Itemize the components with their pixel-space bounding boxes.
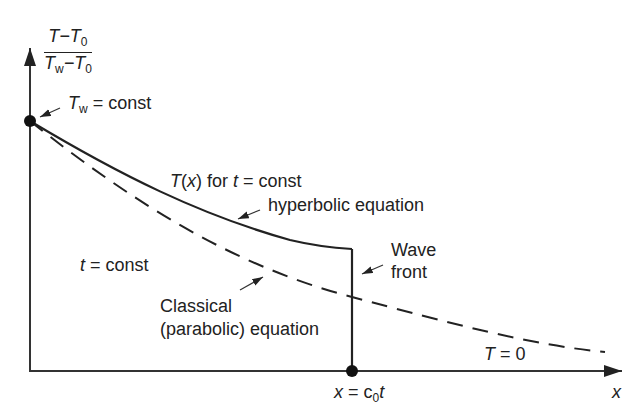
- classical-arrow-icon: [240, 277, 263, 290]
- t0-label: T = 0: [484, 344, 526, 364]
- classical-label-2: (parabolic) equation: [160, 319, 319, 339]
- front-position-label: x = c0t: [334, 382, 384, 408]
- diagram: T−T0 Tw−T0 Tw = const T(x) for t = const…: [0, 0, 639, 419]
- tx-d: ) for: [196, 171, 233, 191]
- tx-f: = const: [238, 171, 302, 191]
- y-num: T−T: [48, 26, 81, 46]
- t0-rest: = 0: [495, 344, 526, 364]
- wave-label-1: Wave: [391, 240, 436, 260]
- x-axis-label: x: [612, 382, 621, 402]
- classical-label-1: Classical: [160, 296, 232, 316]
- parabolic-curve: [30, 121, 605, 352]
- tx-label: T(x) for t = const: [170, 171, 302, 191]
- wave-label-2: front: [391, 262, 427, 282]
- tw-label: Tw = const: [68, 93, 151, 119]
- tw-sub: w: [79, 102, 88, 116]
- tconst-rest: = const: [85, 255, 149, 275]
- t0-T: T: [484, 344, 495, 364]
- tx-a: T: [170, 171, 181, 191]
- y-den: T: [44, 53, 55, 73]
- wall-point: [24, 115, 36, 127]
- y-axis-label: T−T0 Tw−T0: [44, 26, 92, 79]
- xc-x: x: [334, 382, 343, 402]
- tconst-label: t = const: [80, 255, 149, 275]
- y-den-mid: −T: [64, 53, 86, 73]
- xc-eq: = c: [343, 382, 373, 402]
- xc-t: t: [379, 382, 384, 402]
- tw-rest: = const: [88, 93, 152, 113]
- hyperbolic-arrow-icon: [238, 210, 260, 219]
- y-den-sub2: 0: [85, 62, 92, 76]
- tw-T: T: [68, 93, 79, 113]
- wave-arrow-icon: [362, 265, 383, 274]
- hyperbolic-label: hyperbolic equation: [268, 195, 424, 215]
- y-den-sub: w: [55, 62, 64, 76]
- tw-arrow-icon: [40, 108, 60, 117]
- y-num-sub: 0: [81, 35, 88, 49]
- tx-c: x: [187, 171, 196, 191]
- front-point: [346, 365, 358, 377]
